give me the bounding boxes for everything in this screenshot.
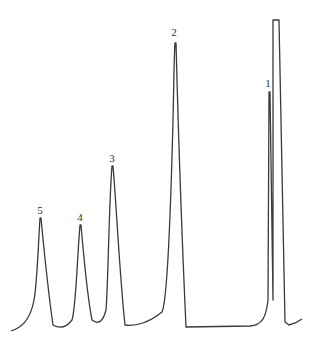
chromatogram-trace [11,20,302,331]
peak-label-1: 1 [265,77,271,89]
peak-label-5: 5 [37,204,43,216]
peak-label-4: 4 [77,211,83,223]
peak-label-3: 3 [109,152,115,164]
peak-label-2: 2 [171,26,177,38]
chromatogram: 5 4 3 2 1 [0,0,311,346]
